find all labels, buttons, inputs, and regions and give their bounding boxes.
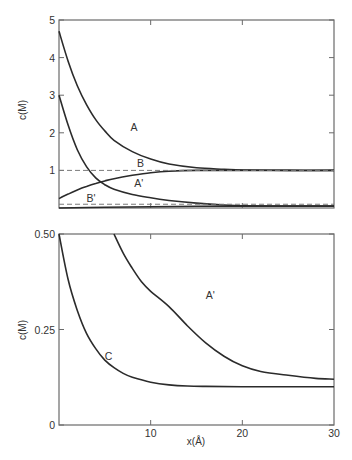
- curve-label: B: [137, 157, 144, 169]
- y-tick-label: 0: [49, 419, 55, 431]
- y-tick-label: 0.25: [35, 324, 56, 336]
- x-tick-label: 10: [145, 427, 157, 439]
- x-tick-label: 30: [328, 427, 340, 439]
- chart-figure: 12345 ABA'B' c(M) 00.250.50 CA' c(M) 102…: [0, 0, 352, 460]
- curve-label: B': [87, 192, 96, 204]
- upper-curves: [59, 31, 334, 208]
- upper-y-ticks: 12345: [49, 14, 334, 208]
- curve-label: A': [206, 289, 215, 301]
- y-tick-label: 5: [49, 14, 55, 26]
- lower-curve-labels: CA': [105, 289, 215, 362]
- curve-a: [59, 95, 334, 206]
- lower-curves: [59, 234, 334, 387]
- lower-y-axis-label: c(M): [17, 320, 28, 340]
- y-tick-label: 4: [49, 52, 55, 64]
- upper-panel: 12345 ABA'B' c(M): [17, 14, 334, 208]
- y-tick-label: 1: [49, 164, 55, 176]
- curve-c: [59, 234, 334, 387]
- curve-a: [59, 31, 334, 170]
- y-tick-label: 2: [49, 127, 55, 139]
- x-tick-label: 20: [236, 427, 248, 439]
- curve-a: [114, 234, 334, 379]
- x-axis-label: x(Å): [187, 435, 205, 447]
- curve-label: C: [105, 350, 113, 362]
- lower-plot-frame: [59, 234, 334, 425]
- curve-b: [59, 170, 334, 198]
- y-tick-label: 3: [49, 89, 55, 101]
- x-axis-ticks: 102030: [145, 427, 340, 439]
- upper-y-axis-label: c(M): [17, 100, 28, 120]
- lower-panel: 00.250.50 CA' c(M): [17, 228, 334, 431]
- curve-label: A': [134, 177, 143, 189]
- upper-curve-labels: ABA'B': [87, 121, 144, 204]
- upper-plot-frame: [59, 20, 334, 208]
- y-tick-label: 0.50: [35, 228, 56, 240]
- lower-y-ticks: 00.250.50: [35, 228, 334, 431]
- curve-label: A: [131, 121, 138, 133]
